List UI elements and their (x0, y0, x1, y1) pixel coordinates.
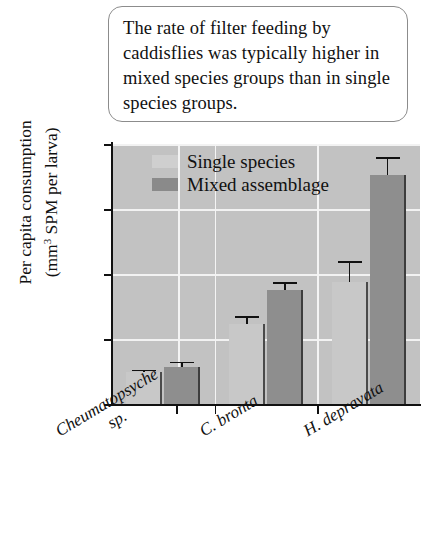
y-tick-mark (104, 339, 112, 341)
legend-item-single: Single species (152, 150, 329, 172)
bar-mixed-1 (267, 290, 303, 404)
legend-label-single: Single species (187, 152, 295, 171)
error-bar-cap-0-2 (338, 261, 362, 263)
gridline-horizontal (112, 144, 420, 146)
x-tick-mark (176, 405, 178, 414)
y-axis-title: Per capita consumption (mm3 SPM per larv… (14, 87, 63, 317)
legend-item-mixed: Mixed assemblage (152, 173, 329, 195)
error-bar-cap-1-2 (376, 157, 400, 159)
error-bar-stem-0-2 (349, 261, 351, 282)
y-tick-mark (104, 274, 112, 276)
y-axis-title-line1: Per capita consumption (15, 120, 35, 284)
y-axis-title-line2-pre: (mm (41, 244, 61, 277)
caption-box: The rate of filter feeding by caddisflie… (108, 6, 408, 122)
bar-mixed-2 (370, 175, 406, 404)
legend-swatch-mixed-icon (152, 178, 178, 191)
y-tick-mark (104, 144, 112, 146)
legend-label-mixed: Mixed assemblage (187, 175, 329, 194)
y-axis-title-superscript: 3 (41, 239, 53, 245)
error-bar-stem-1-2 (387, 157, 389, 175)
chart-legend: Single species Mixed assemblage (152, 150, 329, 196)
error-bar-cap-1-0 (170, 362, 194, 364)
legend-swatch-single-icon (152, 155, 178, 168)
y-axis-title-line2-post: SPM per larva) (41, 127, 61, 238)
caption-text: The rate of filter feeding by caddisflie… (123, 16, 397, 116)
error-bar-cap-1-1 (273, 282, 297, 284)
error-bar-cap-0-1 (235, 316, 259, 318)
y-tick-mark (104, 209, 112, 211)
